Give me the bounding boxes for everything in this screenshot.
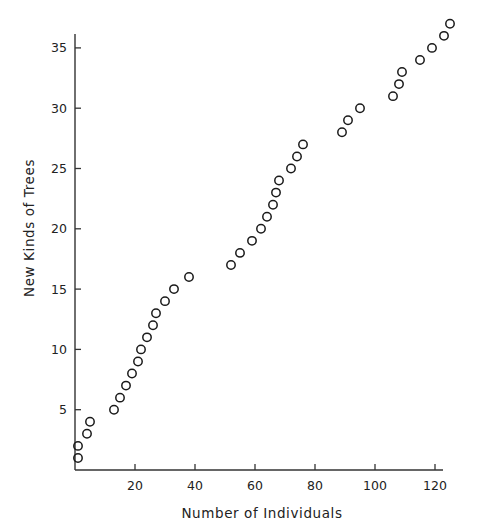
- x-tick-label: 40: [187, 478, 203, 493]
- scatter-chart: 20406080100120 5101520253035 Number of I…: [0, 0, 477, 530]
- y-axis-ticks: 5101520253035: [51, 40, 81, 417]
- y-tick-label: 30: [51, 101, 67, 116]
- axes: [75, 34, 443, 470]
- y-tick-label: 10: [51, 342, 67, 357]
- y-tick-label: 35: [51, 40, 67, 55]
- data-point: [416, 56, 424, 64]
- data-point: [248, 237, 256, 245]
- x-tick-label: 120: [423, 478, 447, 493]
- data-points: [74, 20, 454, 463]
- data-point: [344, 116, 352, 124]
- data-point: [263, 213, 271, 221]
- y-axis-title: New Kinds of Trees: [21, 159, 37, 297]
- data-point: [428, 44, 436, 52]
- data-point: [257, 225, 265, 233]
- data-point: [128, 369, 136, 377]
- data-point: [446, 20, 454, 28]
- data-point: [143, 333, 151, 341]
- data-point: [236, 249, 244, 257]
- data-point: [338, 128, 346, 136]
- x-tick-label: 60: [247, 478, 263, 493]
- data-point: [227, 261, 235, 269]
- y-tick-label: 20: [51, 221, 67, 236]
- data-point: [293, 152, 301, 160]
- data-point: [269, 200, 277, 208]
- data-point: [395, 80, 403, 88]
- data-point: [86, 418, 94, 426]
- x-tick-label: 20: [127, 478, 143, 493]
- x-tick-label: 80: [307, 478, 323, 493]
- data-point: [356, 104, 364, 112]
- data-point: [299, 140, 307, 148]
- data-point: [149, 321, 157, 329]
- data-point: [110, 406, 118, 414]
- data-point: [152, 309, 160, 317]
- data-point: [83, 430, 91, 438]
- data-point: [122, 381, 130, 389]
- data-point: [116, 393, 124, 401]
- x-axis-ticks: 20406080100120: [127, 464, 447, 493]
- data-point: [272, 188, 280, 196]
- data-point: [287, 164, 295, 172]
- data-point: [185, 273, 193, 281]
- y-tick-label: 15: [51, 282, 67, 297]
- y-tick-label: 5: [59, 402, 67, 417]
- data-point: [275, 176, 283, 184]
- data-point: [398, 68, 406, 76]
- y-tick-label: 25: [51, 161, 67, 176]
- data-point: [137, 345, 145, 353]
- x-axis-title: Number of Individuals: [181, 505, 342, 521]
- data-point: [134, 357, 142, 365]
- data-point: [440, 32, 448, 40]
- data-point: [161, 297, 169, 305]
- x-tick-label: 100: [363, 478, 387, 493]
- data-point: [389, 92, 397, 100]
- data-point: [170, 285, 178, 293]
